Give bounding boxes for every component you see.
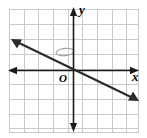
- y-axis-arrow-down-icon: [70, 123, 77, 132]
- coordinate-plane-figure: y x O: [0, 0, 147, 138]
- graph-canvas: [0, 0, 147, 138]
- pencil-mark-ellipse-icon: [56, 47, 75, 56]
- y-axis-arrow-up-icon: [70, 7, 77, 16]
- origin-label: O: [59, 73, 67, 84]
- x-axis-label: x: [132, 70, 139, 83]
- y-axis-label: y: [79, 3, 85, 16]
